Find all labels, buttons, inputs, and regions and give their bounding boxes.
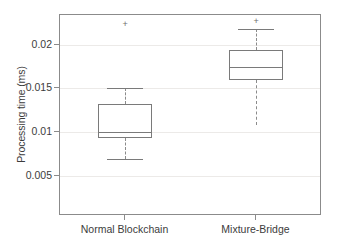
boxplot-figure: Processing time (ms) 0.02 0.015 0.01 0.0… [0,0,337,246]
y-tick-label-0.01: 0.01 [8,125,52,137]
whisker-lower-normal-blockchain [125,138,126,159]
outlier-normal-blockchain [123,22,128,27]
x-tick-mark-mixture-bridge [255,215,256,220]
median-line-mixture-bridge [229,67,283,68]
x-tick-label-normal-blockchain: Normal Blockchain [59,223,190,235]
whisker-upper-mixture-bridge [256,29,257,50]
median-line-normal-blockchain [98,132,152,133]
whisker-cap-upper-mixture-bridge [238,29,274,30]
gridline-0.02 [60,45,320,46]
plot-area [59,14,321,215]
gridline-0.005 [60,176,320,177]
whisker-cap-lower-normal-blockchain [107,159,143,160]
outlier-mixture-bridge [254,19,259,24]
y-tick-label-0.02: 0.02 [8,38,52,50]
y-tick-label-0.005: 0.005 [8,169,52,181]
gridline-0.015 [60,88,320,89]
box-mixture-bridge [229,50,283,80]
whisker-upper-normal-blockchain [125,88,126,104]
whisker-cap-upper-normal-blockchain [107,88,143,89]
x-tick-mark-normal-blockchain [124,215,125,220]
whisker-lower-mixture-bridge [256,80,257,125]
y-tick-label-0.015: 0.015 [8,81,52,93]
x-tick-label-mixture-bridge: Mixture-Bridge [190,223,321,235]
